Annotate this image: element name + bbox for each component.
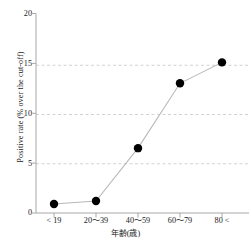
x-tick-label: < 19 (47, 216, 62, 225)
x-tick-label: 20〜39 (84, 216, 108, 225)
x-tick-label: 40〜59 (126, 216, 150, 225)
data-series-markers (50, 58, 226, 208)
data-point-marker (92, 197, 100, 205)
data-point-marker (218, 58, 226, 66)
data-point-marker (134, 144, 142, 152)
data-series-line (54, 62, 222, 204)
plot-area (0, 0, 251, 250)
gridlines (36, 65, 249, 164)
x-tick-label: 80 < (215, 216, 230, 225)
data-point-marker (50, 200, 58, 208)
chart-figure: Positive rate (% over the cut-off) 20 15… (0, 0, 251, 250)
x-axis-title: 年齢(歳) (0, 229, 251, 239)
y-tick-marks (32, 14, 37, 214)
x-tick-label: 60〜79 (168, 216, 192, 225)
data-point-marker (176, 79, 184, 87)
